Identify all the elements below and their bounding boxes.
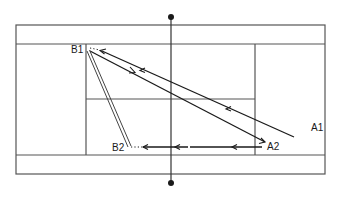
label-b2: B2 — [112, 143, 124, 153]
tennis-court-diagram — [0, 0, 337, 197]
shot-b1-to-b2-line2 — [90, 50, 132, 146]
net-post-bottom — [168, 180, 174, 186]
net-post-top — [168, 14, 174, 20]
label-a1: A1 — [311, 123, 323, 133]
label-a2: A2 — [267, 142, 279, 152]
shot-b1-to-a2 — [90, 51, 265, 142]
shot-a1-to-b1 — [102, 51, 294, 137]
label-b1: B1 — [71, 45, 83, 55]
dotted-a1-b1 — [90, 48, 100, 50]
court — [16, 17, 325, 183]
